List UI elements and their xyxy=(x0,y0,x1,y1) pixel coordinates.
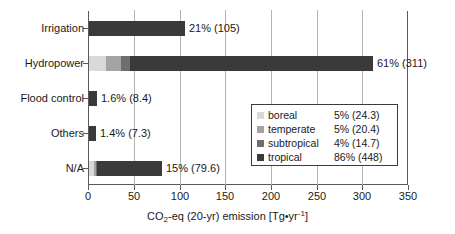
x-axis-title-suffix: ] xyxy=(305,210,308,222)
bar-value-label-others: 1.4% (7.3) xyxy=(100,126,151,141)
legend-label-boreal: boreal xyxy=(268,109,334,121)
bar-segment-subtropical xyxy=(121,56,130,71)
x-tick-label-300: 300 xyxy=(342,190,382,202)
legend-value-temperate: 5% (20.4) xyxy=(334,123,380,135)
x-tick-label-100: 100 xyxy=(160,190,200,202)
legend-swatch-tropical-icon xyxy=(257,154,264,161)
bar-segment-tropical xyxy=(89,126,96,141)
legend-value-boreal: 5% (24.3) xyxy=(334,109,380,121)
x-tick-label-350: 350 xyxy=(388,190,428,202)
bar-segment-tropical xyxy=(97,161,163,176)
legend-label-temperate: temperate xyxy=(268,123,334,135)
x-tick-label-150: 150 xyxy=(205,190,245,202)
legend-value-subtropical: 4% (14.7) xyxy=(334,137,380,149)
gridline-150 xyxy=(225,10,226,185)
legend-swatch-boreal-icon xyxy=(257,112,264,119)
bar-value-label-hydropower: 61% (311) xyxy=(377,56,427,71)
legend-swatch-subtropical-icon xyxy=(257,140,264,147)
x-tick-label-50: 50 xyxy=(114,190,154,202)
gridline-100 xyxy=(180,10,181,185)
bar-value-label-na: 15% (79.6) xyxy=(166,161,220,176)
bar-segment-tropical xyxy=(89,21,185,36)
bar-hydropower xyxy=(89,56,373,71)
legend-value-tropical: 86% (448) xyxy=(334,151,382,163)
bar-others xyxy=(89,126,96,141)
y-axis-label-others: Others xyxy=(0,127,84,139)
y-axis-label-flood-control: Flood control xyxy=(0,92,84,104)
stacked-bar-chart: Irrigation 21% (105) Hydropower 61% (311… xyxy=(0,0,455,234)
legend-item-subtropical: subtropical 4% (14.7) xyxy=(257,136,392,150)
x-tick-label-0: 0 xyxy=(68,190,108,202)
bar-irrigation xyxy=(89,21,185,36)
legend-item-boreal: boreal 5% (24.3) xyxy=(257,108,392,122)
bar-value-label-irrigation: 21% (105) xyxy=(189,21,240,36)
x-axis-title: CO2-eq (20-yr) emission [Tg•yr-1] xyxy=(0,209,455,224)
x-tick-label-200: 200 xyxy=(251,190,291,202)
bar-value-label-flood-control: 1.6% (8.4) xyxy=(101,91,152,106)
bar-na xyxy=(89,161,162,176)
bar-segment-tropical xyxy=(130,56,373,71)
x-tick-label-250: 250 xyxy=(297,190,337,202)
y-axis-label-irrigation: Irrigation xyxy=(0,22,84,34)
x-axis-title-superscript: -1 xyxy=(298,209,305,218)
legend: boreal 5% (24.3) temperate 5% (20.4) sub… xyxy=(251,104,398,166)
bar-segment-boreal xyxy=(89,56,106,71)
legend-swatch-temperate-icon xyxy=(257,126,264,133)
y-axis-label-hydropower: Hydropower xyxy=(0,57,84,69)
y-axis-label-na: N/A xyxy=(0,162,84,174)
x-axis-title-prefix: CO xyxy=(147,210,164,222)
legend-item-tropical: tropical 86% (448) xyxy=(257,150,392,164)
legend-label-subtropical: subtropical xyxy=(268,137,334,149)
legend-item-temperate: temperate 5% (20.4) xyxy=(257,122,392,136)
x-axis-title-main: -eq (20-yr) emission [Tg•yr xyxy=(168,210,298,222)
bar-segment-tropical xyxy=(89,91,97,106)
bar-segment-temperate xyxy=(106,56,122,71)
legend-label-tropical: tropical xyxy=(268,151,334,163)
bar-flood-control xyxy=(89,91,97,106)
